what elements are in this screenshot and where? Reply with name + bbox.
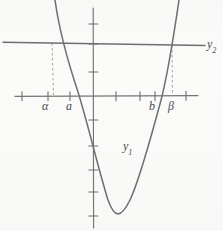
label-curve-y1-subscript: 1 [128, 148, 132, 157]
beta-drop-line [172, 45, 173, 95]
label-curve-y1: y1 [123, 140, 132, 155]
curve-y1 [55, 0, 179, 214]
label-curve-y2-subscript: 2 [212, 46, 216, 55]
figure-canvas [0, 0, 223, 231]
label-curve-y2: y2 [207, 38, 216, 53]
curve-y2 [3, 42, 205, 45]
label-beta: β [168, 100, 174, 112]
label-alpha: α [42, 100, 48, 112]
alpha-drop-line [52, 43, 54, 95]
x-axis [15, 96, 198, 97]
math-figure: α a b β y1 y2 [0, 0, 223, 231]
label-b: b [149, 100, 155, 112]
label-a: a [66, 100, 72, 112]
